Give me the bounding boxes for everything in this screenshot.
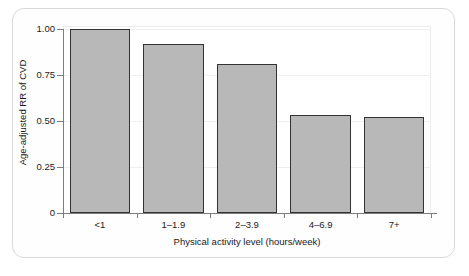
figure-container: 00.250.500.751.00 <11–1.92–3.94–6.97+ Ag… — [0, 0, 469, 276]
bar — [70, 29, 130, 213]
x-tick-mark — [284, 213, 285, 218]
y-axis-line — [63, 29, 64, 214]
x-tick-mark — [431, 213, 432, 218]
y-tick-label: 0 — [21, 208, 55, 218]
bar — [290, 115, 350, 213]
x-tick-mark — [137, 213, 138, 218]
x-axis-title: Physical activity level (hours/week) — [63, 236, 431, 247]
x-tick-label: 4–6.9 — [284, 220, 358, 230]
x-axis-line — [57, 213, 437, 214]
bar — [217, 64, 277, 213]
bar — [364, 117, 424, 213]
y-tick-mark — [57, 75, 63, 76]
x-tick-label: 1–1.9 — [137, 220, 211, 230]
x-tick-label: 2–3.9 — [210, 220, 284, 230]
x-tick-mark — [63, 213, 64, 218]
y-tick-mark — [57, 29, 63, 30]
x-tick-mark — [210, 213, 211, 218]
y-tick-mark — [57, 121, 63, 122]
y-axis-title: Age-adjusted RR of CVD — [17, 33, 28, 193]
x-tick-label: <1 — [63, 220, 137, 230]
x-tick-mark — [357, 213, 358, 218]
bar — [143, 44, 203, 213]
y-tick-mark — [57, 167, 63, 168]
x-tick-label: 7+ — [357, 220, 431, 230]
